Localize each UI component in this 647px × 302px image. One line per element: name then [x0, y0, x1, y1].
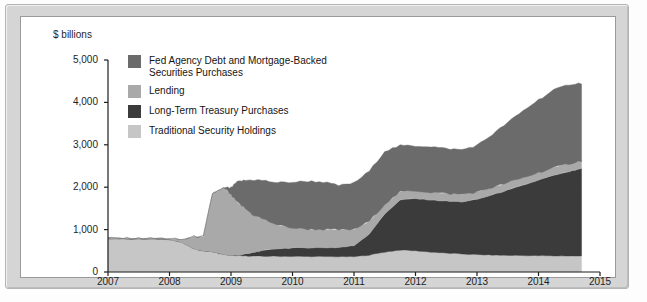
x-tick-label: 2007	[88, 276, 128, 287]
x-tick-label: 2008	[150, 276, 190, 287]
legend-item: Lending	[128, 85, 327, 98]
figure-page: Inside the Fed A Monetary Policy Change …	[0, 0, 647, 302]
legend-item: Fed Agency Debt and Mortgage-Backed Secu…	[128, 55, 327, 78]
legend-swatch	[128, 55, 141, 68]
x-tick-label: 2015	[580, 276, 620, 287]
x-tick-label: 2010	[273, 276, 313, 287]
legend-item: Traditional Security Holdings	[128, 125, 327, 138]
x-tick-label: 2014	[519, 276, 559, 287]
chart-legend: Fed Agency Debt and Mortgage-Backed Secu…	[128, 55, 327, 145]
legend-item: Long-Term Treasury Purchases	[128, 105, 327, 118]
x-tick-label: 2011	[334, 276, 374, 287]
legend-label: Traditional Security Holdings	[149, 125, 276, 137]
y-tick-label: 4,000	[52, 97, 98, 107]
legend-label: Lending	[149, 85, 185, 97]
y-axis-unit-label: $ billions	[53, 29, 92, 40]
y-tick-label: 1,000	[52, 225, 98, 235]
y-tick-label: 2,000	[52, 182, 98, 192]
legend-swatch	[128, 105, 141, 118]
x-tick-label: 2013	[457, 276, 497, 287]
legend-label: Fed Agency Debt and Mortgage-Backed Secu…	[149, 55, 327, 78]
legend-swatch	[128, 125, 141, 138]
y-tick-label: 3,000	[52, 140, 98, 150]
x-tick-label: 2009	[211, 276, 251, 287]
legend-label: Long-Term Treasury Purchases	[149, 105, 289, 117]
x-tick-label: 2012	[396, 276, 436, 287]
legend-swatch	[128, 85, 141, 98]
y-tick-label: 5,000	[52, 55, 98, 65]
figure-frame	[5, 4, 629, 289]
